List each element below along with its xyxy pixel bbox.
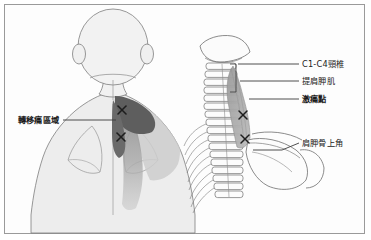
label-referred-pain-area: 轉移痛區域 bbox=[18, 116, 59, 125]
ear-right bbox=[141, 44, 154, 64]
head-shape bbox=[78, 9, 148, 85]
label-superior-angle-of-scapula: 肩胛骨上角 bbox=[302, 139, 343, 148]
label-levator-scapulae: 提肩胛肌 bbox=[302, 77, 335, 86]
anatomy-figure: 轉移痛區域 C1-C4頸椎 提肩胛肌 激痛點 肩胛骨上角 bbox=[0, 0, 371, 240]
ear-left bbox=[73, 44, 86, 64]
label-trigger-point: 激痛點 bbox=[302, 95, 327, 104]
scapula-bone bbox=[246, 138, 308, 189]
skull-base bbox=[200, 35, 250, 62]
label-cervical-vertebrae: C1-C4頸椎 bbox=[302, 60, 344, 69]
